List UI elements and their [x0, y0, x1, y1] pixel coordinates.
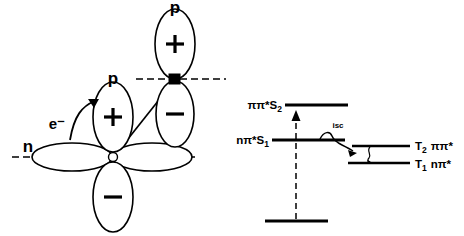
state-label-s1-sub: 1	[264, 139, 269, 149]
state-label-t1: T1nπ*	[415, 158, 452, 173]
state-label-t1-config: nπ*	[431, 158, 452, 170]
p-upper-node-square	[169, 74, 180, 84]
triplet-relaxation-wavy-path	[368, 147, 370, 162]
figure-root: p p n e⁻ ππ*S2	[0, 0, 464, 236]
electron-promotion-arrow-curve	[70, 101, 95, 140]
jablonski-diagram: ππ*S2 nπ*S1 T2ππ* T1nπ* isc	[236, 99, 453, 221]
state-label-t1-sub: 1	[422, 163, 427, 173]
isc-label: isc	[332, 121, 344, 130]
p-center-node-circle	[109, 153, 118, 162]
isc-wavy-arrow-path	[320, 133, 353, 151]
state-label-t2-config: ππ*	[431, 140, 454, 152]
figure-canvas: p p n e⁻ ππ*S2	[0, 0, 464, 236]
n-orbital-label: n	[23, 137, 33, 156]
absorption-arrowhead	[292, 110, 301, 121]
p-center-label: p	[108, 69, 118, 88]
electron-label: e⁻	[49, 115, 65, 132]
state-label-s2-main: ππ*S	[248, 99, 278, 111]
state-label-t2-sub: 2	[422, 145, 427, 155]
state-label-t2: T2ππ*	[415, 140, 453, 155]
orbital-diagram: p p n e⁻	[12, 0, 226, 232]
state-label-s2-sub: 2	[277, 104, 282, 114]
state-label-t1-main: T	[415, 158, 422, 170]
p-upper-label: p	[170, 0, 180, 17]
state-label-s1: nπ*S1	[236, 134, 269, 149]
state-label-s2: ππ*S2	[248, 99, 283, 114]
state-label-t2-main: T	[415, 140, 422, 152]
state-label-s1-main: nπ*S	[236, 134, 264, 146]
n-left-lobe	[32, 143, 112, 171]
